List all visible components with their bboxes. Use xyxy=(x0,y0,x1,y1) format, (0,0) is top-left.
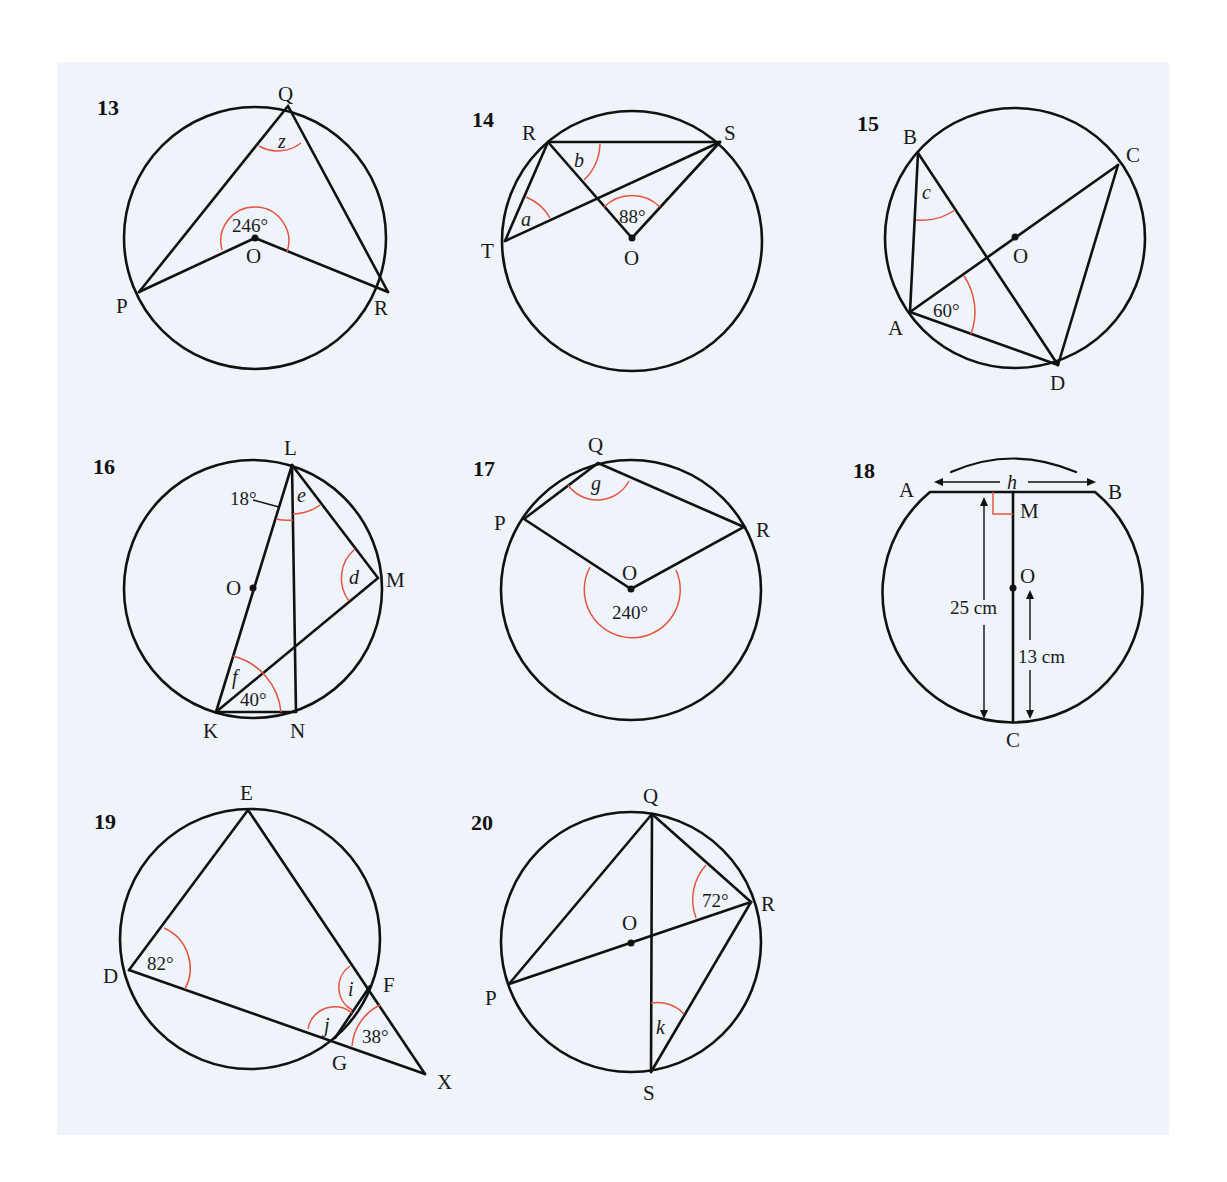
diagram-14: 14 R S T O 88° a b xyxy=(472,107,762,371)
point-label-s: S xyxy=(643,1081,655,1105)
point-label-o: O xyxy=(622,911,637,935)
length-label-h: h xyxy=(1007,471,1017,493)
chord-lm xyxy=(292,465,378,578)
angle-arc-c xyxy=(916,210,955,220)
point-label-r: R xyxy=(374,296,388,320)
point-label-s: S xyxy=(724,121,736,145)
angle-label-z: z xyxy=(277,130,286,152)
arrowhead-right-icon xyxy=(1087,478,1096,486)
problem-number: 16 xyxy=(93,454,115,479)
point-label-r: R xyxy=(522,121,536,145)
point-label-c: C xyxy=(1126,143,1140,167)
point-label-c: C xyxy=(1006,728,1020,752)
point-label-m: M xyxy=(1020,499,1039,523)
chord-cd xyxy=(1058,165,1118,365)
problem-number: 15 xyxy=(857,111,879,136)
point-label-t: T xyxy=(481,239,494,263)
angle-arc-18 xyxy=(276,519,293,520)
angle-label-i: i xyxy=(348,978,354,1000)
center-dot xyxy=(1012,234,1019,241)
chord-qr xyxy=(652,814,751,902)
diagram-17: 17 Q P R O 240° g xyxy=(473,433,770,720)
center-dot xyxy=(628,586,635,593)
arrowhead-up-icon xyxy=(980,497,988,506)
point-label-o: O xyxy=(1020,564,1035,588)
minor-arc-ab xyxy=(951,459,1076,473)
diagram-13: 13 Q P R O 246° z xyxy=(97,82,388,369)
chord-bd xyxy=(918,153,1058,365)
chord-ts xyxy=(505,142,720,241)
point-label-o: O xyxy=(622,561,637,585)
point-label-p: P xyxy=(494,511,506,535)
point-label-x: X xyxy=(437,1070,452,1094)
problem-number: 14 xyxy=(472,107,494,132)
point-label-f: F xyxy=(383,973,395,997)
length-label-25cm: 25 cm xyxy=(950,597,997,618)
point-label-q: Q xyxy=(278,82,293,106)
angle-label-f: f xyxy=(232,666,240,689)
point-label-q: Q xyxy=(588,433,603,457)
center-dot xyxy=(250,585,257,592)
leader-line-18 xyxy=(253,500,279,507)
center-dot xyxy=(629,235,636,242)
angle-label-240: 240° xyxy=(612,602,648,623)
point-label-a: A xyxy=(899,478,915,502)
point-label-o: O xyxy=(226,576,241,600)
angle-label-60: 60° xyxy=(933,300,960,321)
point-label-r: R xyxy=(761,892,775,916)
point-label-e: E xyxy=(240,781,253,805)
length-label-13cm: 13 cm xyxy=(1018,646,1065,667)
point-label-a: A xyxy=(888,316,904,340)
diagram-18: 18 A B M O C h 25 cm 13 cm xyxy=(853,458,1143,752)
point-label-d: D xyxy=(103,964,118,988)
angle-label-e: e xyxy=(297,484,306,506)
angle-label-82: 82° xyxy=(147,953,174,974)
angle-label-d: d xyxy=(349,566,360,588)
problem-number: 18 xyxy=(853,458,875,483)
arrowhead-left-icon xyxy=(934,478,943,486)
diagram-20: 20 Q R P S O 72° k xyxy=(471,784,775,1105)
point-label-n: N xyxy=(290,719,305,743)
angle-label-40: 40° xyxy=(240,689,267,710)
diagram-16: 16 L M K N O 18° 40° e d f xyxy=(93,436,405,743)
point-label-b: B xyxy=(903,125,917,149)
line-dx xyxy=(129,970,425,1074)
point-label-o: O xyxy=(246,244,261,268)
problem-number: 20 xyxy=(471,810,493,835)
point-label-o: O xyxy=(624,246,639,270)
point-label-o: O xyxy=(1013,244,1028,268)
point-label-g: G xyxy=(332,1051,347,1075)
arrowhead-down-icon xyxy=(1026,710,1034,719)
chord-ed xyxy=(129,810,248,970)
arrowhead-up-icon xyxy=(1026,590,1034,599)
diagram-19: 19 E D F G X 82° 38° i j xyxy=(94,781,452,1094)
angle-label-g: g xyxy=(591,472,601,495)
angle-label-k: k xyxy=(656,1016,666,1038)
angle-arc-e xyxy=(293,505,320,514)
point-label-d: D xyxy=(1050,371,1065,395)
center-dot xyxy=(628,940,635,947)
angle-label-b: b xyxy=(574,149,584,171)
chord-rs xyxy=(651,902,751,1072)
circle-theorem-diagrams: 13 Q P R O 246° z 14 R S T O 88° a b 15 xyxy=(0,0,1227,1182)
problem-number: 19 xyxy=(94,809,116,834)
diagram-15: 15 B C A D O 60° c xyxy=(857,108,1145,395)
angle-label-72: 72° xyxy=(702,890,729,911)
angle-label-18: 18° xyxy=(230,488,257,509)
angle-arc-k xyxy=(651,1002,684,1014)
point-label-p: P xyxy=(116,294,128,318)
right-angle-marker xyxy=(993,492,1013,514)
point-label-p: P xyxy=(485,986,497,1010)
angle-label-38: 38° xyxy=(362,1026,389,1047)
angle-label-j: j xyxy=(321,1014,330,1037)
point-label-r: R xyxy=(756,518,770,542)
angle-arc-60 xyxy=(964,276,975,334)
chord-ba xyxy=(910,153,918,312)
angle-arc-b xyxy=(584,144,600,180)
problem-number: 17 xyxy=(473,456,495,481)
angle-label-88: 88° xyxy=(619,206,646,227)
chord-ln xyxy=(292,465,296,712)
point-label-l: L xyxy=(284,436,297,460)
angle-label-a: a xyxy=(521,208,531,230)
problem-number: 13 xyxy=(97,95,119,120)
